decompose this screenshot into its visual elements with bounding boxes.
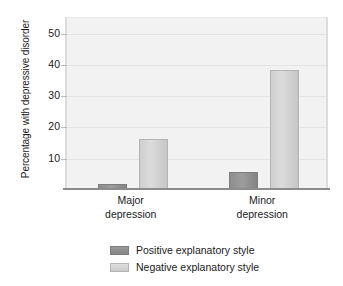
legend-item-label: Positive explanatory style [136, 244, 254, 256]
bar-negative [139, 139, 168, 189]
y-axis-tick-label: 10 [34, 153, 60, 163]
chart-legend: Positive explanatory styleNegative expla… [110, 243, 310, 277]
y-axis-tick-labels: 1020304050 [30, 0, 60, 286]
plot-area [65, 17, 328, 189]
x-axis-category-label-line: Minor [217, 194, 307, 208]
bar-negative [270, 70, 299, 189]
x-axis-category-label: Minordepression [217, 194, 307, 221]
x-axis-category-label: Majordepression [86, 194, 176, 221]
y-axis-tick-label: 30 [34, 90, 60, 100]
x-axis-category-label-line: depression [217, 208, 307, 222]
x-axis-category-label-line: depression [86, 208, 176, 222]
y-axis-tick-label: 20 [34, 121, 60, 131]
y-axis-tick-label: 50 [34, 28, 60, 38]
y-axis-tick-label: 40 [34, 59, 60, 69]
bars-layer [67, 18, 326, 189]
x-axis-category-labels: MajordepressionMinordepression [65, 194, 328, 228]
bar-chart-figure: Percentage with depressive disorder 1020… [0, 0, 343, 286]
x-axis-category-label-line: Major [86, 194, 176, 208]
legend-item: Negative explanatory style [110, 260, 310, 274]
legend-item-label: Negative explanatory style [136, 261, 259, 273]
positive-swatch-icon [110, 246, 129, 255]
legend-item: Positive explanatory style [110, 243, 310, 257]
bar-positive [229, 172, 258, 189]
negative-swatch-icon [110, 263, 129, 272]
x-axis-baseline [63, 188, 330, 190]
